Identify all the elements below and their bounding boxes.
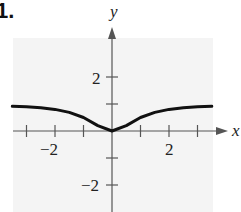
y-axis-arrow-icon (108, 27, 116, 39)
x-axis-arrow-icon (216, 127, 228, 135)
y-tick-label-neg2: −2 (81, 176, 99, 196)
y-axis (108, 27, 116, 212)
x-axis-label: x (232, 121, 240, 141)
y-axis-label: y (110, 2, 118, 22)
x-tick-label-pos2: 2 (165, 140, 174, 160)
y-tick-label-pos2: 2 (92, 69, 101, 89)
x-tick-label-neg2: −2 (40, 140, 58, 160)
chart-canvas (0, 0, 241, 212)
